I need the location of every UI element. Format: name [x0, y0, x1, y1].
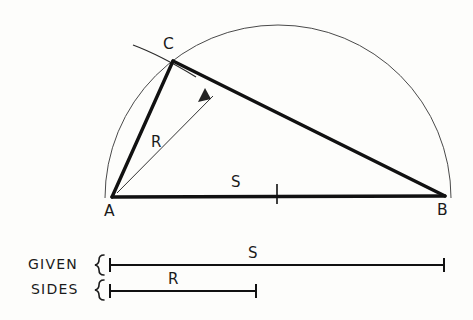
given-text-line2: SIDES — [31, 281, 79, 297]
side-cb-line — [173, 61, 445, 196]
brace-upper-icon — [95, 255, 104, 275]
given-text-line1: GIVEN — [28, 256, 78, 272]
vertex-label-b: B — [437, 201, 448, 219]
vertex-label-c: C — [163, 35, 174, 53]
radius-label-figure: R — [151, 133, 162, 151]
vertex-label-a: A — [104, 202, 115, 220]
given-side-label-s: S — [248, 244, 258, 262]
geometric-construction-diagram: A B C R S GIVEN SIDES S R — [0, 0, 473, 320]
figure-canvas: A B C R S GIVEN SIDES S R — [0, 0, 473, 320]
radius-leader-line — [117, 96, 213, 193]
side-ac-line — [112, 61, 173, 197]
given-side-label-r: R — [168, 270, 179, 288]
side-ab-line — [112, 196, 445, 197]
side-label-figure: S — [231, 173, 241, 191]
brace-lower-icon — [95, 280, 104, 300]
